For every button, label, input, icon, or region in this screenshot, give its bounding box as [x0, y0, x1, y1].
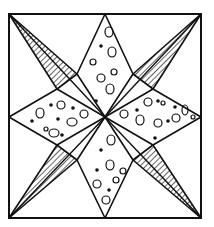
dot	[153, 136, 157, 140]
dot	[135, 108, 139, 112]
dot	[60, 133, 64, 137]
diamond-bottom	[77, 117, 133, 218]
dot	[95, 168, 99, 172]
dot	[30, 119, 34, 123]
dot	[99, 44, 103, 48]
dot	[107, 188, 111, 192]
dot	[71, 106, 75, 110]
dot	[56, 117, 60, 121]
quilt-block-drawing	[0, 0, 214, 227]
dot	[49, 103, 53, 107]
dot	[166, 119, 170, 123]
diamond-right	[105, 89, 201, 145]
dot	[99, 148, 103, 152]
dot	[94, 99, 98, 103]
dot	[173, 105, 177, 109]
dot	[156, 99, 160, 103]
